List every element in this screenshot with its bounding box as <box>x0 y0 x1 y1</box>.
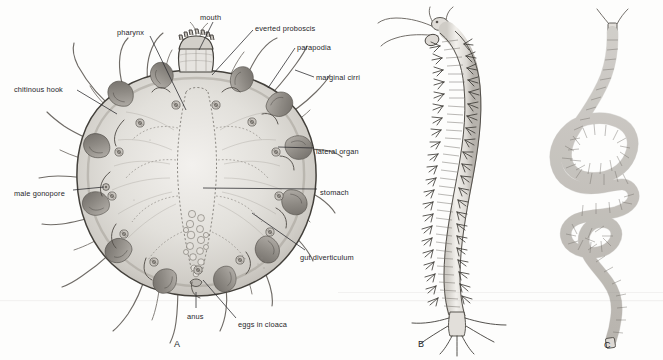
label-stomach: stomach <box>320 189 349 196</box>
label-gut-diverticulum: gut diverticulum <box>300 254 354 261</box>
figure-letter-b: B <box>418 340 424 349</box>
label-parapodia: parapodia <box>297 44 331 51</box>
label-eggs-in-cloaca: eggs in cloaca <box>238 321 287 328</box>
label-male-gonopore: male gonopore <box>14 190 65 197</box>
illustration-plate: pharynxmoutheverted proboscisparapodiama… <box>0 0 663 360</box>
label-pharynx: pharynx <box>117 29 144 36</box>
label-chitinous-hook: chitinous hook <box>14 86 63 93</box>
label-marginal-cirri: marginal cirri <box>316 74 360 81</box>
label-mouth: mouth <box>200 14 221 21</box>
label-anus: anus <box>187 313 204 320</box>
figure-letter-c: C <box>604 341 611 350</box>
label-everted-proboscis: everted proboscis <box>255 25 315 32</box>
plate-artwork <box>0 0 663 360</box>
label-lateral-organ: lateral organ <box>316 148 359 155</box>
figure-letter-a: A <box>174 340 180 349</box>
